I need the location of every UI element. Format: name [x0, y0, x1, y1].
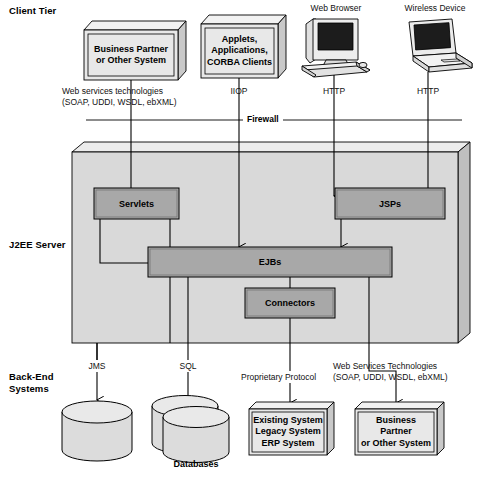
web-browser-label: Web Browser	[291, 3, 381, 13]
protocol-http-wireless: HTTP	[405, 86, 451, 97]
databases-cylinder	[152, 396, 229, 463]
protocol-proprietary: Proprietary Protocol	[241, 372, 341, 383]
protocol-web-services-backend: Web Services Technologies (SOAP, UDDI, W…	[333, 361, 485, 382]
databases-label: Databases	[146, 459, 246, 469]
desktop-computer-icon	[302, 19, 370, 77]
wireless-device-label: Wireless Device	[385, 3, 485, 13]
protocol-http-browser: HTTP	[311, 86, 357, 97]
protocol-jms: JMS	[76, 361, 118, 372]
tier-label-j2ee-server: J2EE Server	[9, 239, 66, 251]
laptop-icon	[409, 19, 472, 72]
ejbs-label: EJBs	[148, 247, 392, 277]
message-queue-cylinder	[62, 401, 132, 461]
existing-legacy-erp-label: Existing System Legacy System ERP System	[249, 409, 327, 455]
j2ee-architecture-diagram: Client Tier J2EE Server Back-End Systems…	[0, 0, 487, 477]
tier-label-back-end-systems: Back-End Systems	[9, 371, 54, 395]
business-partner-client-label: Business Partner or Other System	[84, 30, 178, 80]
servlets-label: Servlets	[94, 188, 179, 219]
firewall-label: Firewall	[243, 114, 283, 124]
jsps-label: JSPs	[335, 188, 445, 219]
protocol-web-services-client: Web services technologies (SOAP, UDDI, W…	[62, 86, 202, 107]
business-partner-backend-label: Business Partner or Other System	[355, 409, 437, 455]
tier-label-client-tier: Client Tier	[9, 5, 56, 17]
connectors-label: Connectors	[245, 288, 335, 318]
applets-applications-corba-label: Applets, Applications, CORBA Clients	[201, 24, 278, 78]
protocol-iiop: IIOP	[216, 86, 262, 97]
protocol-sql: SQL	[167, 361, 209, 372]
